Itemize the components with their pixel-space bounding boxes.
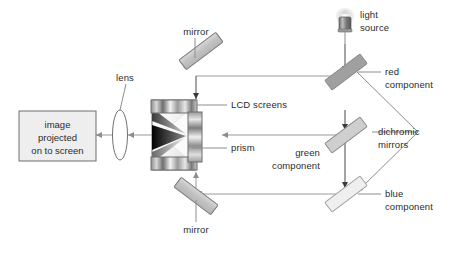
label-light-source: light source — [360, 9, 389, 34]
label-lcd-screens: LCD screens — [231, 99, 287, 112]
leader-lens — [120, 84, 126, 110]
label-mirror-top: mirror — [166, 26, 226, 39]
lcd-screen-right — [188, 112, 202, 162]
prism-assembly — [151, 100, 202, 170]
label-mirror-bottom: mirror — [166, 224, 226, 237]
lamp-icon — [335, 7, 355, 44]
label-dichromic-mirrors: dichromic mirrors — [378, 126, 420, 151]
label-green-component: green component — [240, 147, 320, 172]
label-red-component: red component — [385, 66, 433, 91]
lcd-screen-top — [151, 100, 197, 113]
lens-icon — [113, 110, 128, 160]
label-lens: lens — [102, 72, 148, 85]
label-blue-component: blue component — [385, 188, 433, 213]
projection-screen-label: image projected on to screen — [19, 118, 96, 157]
diagram-canvas: mirror mirror lens LCD screens prism lig… — [0, 0, 461, 255]
